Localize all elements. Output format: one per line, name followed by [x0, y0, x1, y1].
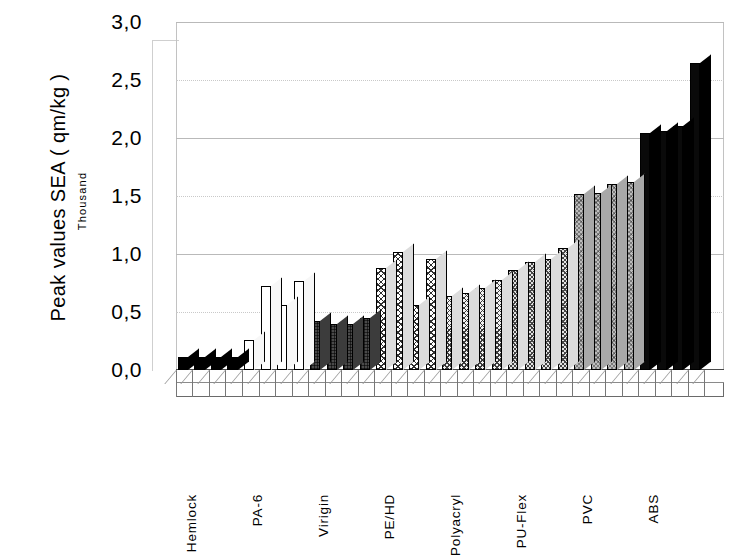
bar-side-face — [287, 296, 298, 370]
bar-side-face — [535, 254, 546, 370]
bar-side-face — [700, 54, 711, 370]
x-axis-tick — [391, 370, 392, 397]
x-axis-tick-label: PVC — [580, 494, 595, 524]
x-axis-tick — [358, 370, 359, 397]
bar-side-face — [667, 122, 678, 370]
x-axis-tick — [688, 370, 689, 397]
x-axis-tick — [325, 370, 326, 397]
x-axis-tick-label: ABS — [646, 494, 661, 523]
x-axis-tick — [292, 370, 293, 397]
bar-side-face — [337, 315, 348, 370]
x-axis-tick — [473, 370, 474, 397]
bar — [178, 357, 188, 370]
bar-side-face — [386, 259, 397, 370]
x-axis-tick — [424, 370, 425, 397]
bar-side-face — [403, 243, 414, 370]
bar-series — [176, 22, 724, 370]
bar-side-face — [551, 250, 562, 370]
bar-side-face — [502, 271, 513, 370]
x-axis-tick — [506, 370, 507, 397]
x-axis-tick-label: Virigin — [316, 494, 331, 537]
x-axis-tick — [622, 370, 623, 397]
plot-left-wall — [152, 40, 179, 371]
y-axis-tick-label: 2,5 — [78, 69, 142, 90]
x-axis-tick — [671, 370, 672, 397]
y-axis-tick-label: 3,0 — [78, 11, 142, 32]
x-axis-tick — [655, 370, 656, 397]
y-axis-tick-label: 2,0 — [78, 127, 142, 148]
x-axis-tick — [374, 370, 375, 397]
bar-side-face — [353, 315, 364, 370]
bar-side-face — [320, 313, 331, 370]
x-axis-tick-label: PA-6 — [250, 494, 265, 526]
x-axis-tick — [638, 370, 639, 397]
y-axis-tick-label: 1,5 — [78, 185, 142, 206]
y-axis-tick-label: 0,5 — [78, 301, 142, 322]
bar-side-face — [436, 250, 447, 370]
x-axis-tick — [523, 370, 524, 397]
x-axis-tick — [539, 370, 540, 397]
x-axis-tick — [589, 370, 590, 397]
x-axis-tick — [192, 370, 193, 397]
bar-side-face — [452, 287, 463, 370]
x-axis-tick — [341, 370, 342, 397]
bar-side-face — [617, 176, 628, 370]
x-axis-tick — [440, 370, 441, 397]
bar-side-face — [683, 118, 694, 370]
y-axis-tick-labels: 0,00,51,01,52,02,53,0 — [38, 0, 142, 498]
x-axis-floor — [176, 370, 736, 398]
x-axis-tick-labels: HemlockPA-6ViriginPE/HDPolyacrylPU-FlexP… — [176, 398, 736, 498]
x-axis-tick — [490, 370, 491, 397]
bar-front-face — [178, 357, 188, 370]
x-axis-tick — [704, 370, 705, 397]
x-axis-tick — [308, 370, 309, 397]
x-axis-tick — [225, 370, 226, 397]
x-axis-tick — [176, 370, 177, 397]
bar-side-face — [650, 125, 661, 370]
bar-side-face — [419, 296, 430, 370]
bar-side-face — [601, 184, 612, 370]
x-axis-tick — [457, 370, 458, 397]
x-axis-tick — [259, 370, 260, 397]
bar-side-face — [518, 262, 529, 370]
x-axis-tick — [572, 370, 573, 397]
x-axis-tick — [209, 370, 210, 397]
bar-side-face — [568, 240, 579, 370]
bar-side-face — [370, 309, 381, 370]
x-axis-tick — [605, 370, 606, 397]
x-axis-tick — [407, 370, 408, 397]
y-axis-tick-label: 1,0 — [78, 243, 142, 264]
bar-side-face — [634, 173, 645, 370]
x-axis-tick-label: Hemlock — [184, 494, 199, 552]
bar-side-face — [304, 272, 315, 370]
x-axis-tick — [275, 370, 276, 397]
bar-side-face — [485, 279, 496, 370]
x-axis-tick — [242, 370, 243, 397]
bar-side-face — [584, 185, 595, 370]
x-axis-tick-label: PU-Flex — [514, 494, 529, 548]
bar-side-face — [469, 285, 480, 370]
x-axis-tick-label: Polyacryl — [448, 494, 463, 556]
x-axis-tick — [556, 370, 557, 397]
y-axis-tick-label: 0,0 — [78, 359, 142, 380]
bar-side-face — [271, 278, 282, 370]
x-axis-tick-label: PE/HD — [382, 494, 397, 539]
